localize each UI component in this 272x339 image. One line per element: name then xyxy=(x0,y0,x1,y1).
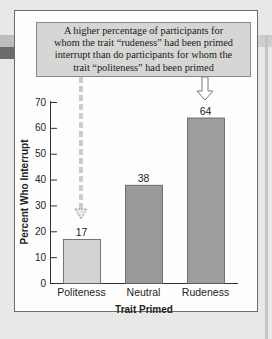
bar-rudeness xyxy=(188,118,225,283)
y-tick-label: 30 xyxy=(35,200,47,211)
y-ticks: 010203040506070 xyxy=(35,97,57,289)
bars: 17Politeness38Neutral64Rudeness xyxy=(57,105,229,298)
bar-neutral xyxy=(126,185,163,283)
y-tick-label: 50 xyxy=(35,148,47,159)
callout-line: A higher percentage of participants for xyxy=(37,25,250,37)
bar-value-label: 17 xyxy=(76,226,88,238)
arrow-down-icon xyxy=(197,77,213,100)
callout-line: whom the trait “rudeness” had been prime… xyxy=(37,37,250,49)
dashed-arrow-icon xyxy=(75,77,87,219)
annotation-callout: A higher percentage of participants for … xyxy=(36,22,251,77)
y-tick-label: 70 xyxy=(35,97,47,108)
callout-line: trait “politeness” had been primed xyxy=(37,62,250,74)
x-category-label: Neutral xyxy=(127,286,161,298)
callout-line: interrupt than do participants for whom … xyxy=(37,49,250,61)
y-tick-label: 40 xyxy=(35,174,47,185)
bar-politeness xyxy=(64,240,101,284)
y-tick-label: 10 xyxy=(35,252,47,263)
bar-value-label: 64 xyxy=(200,105,212,117)
y-axis-title: Percent Who Interrupt xyxy=(19,139,30,245)
x-axis-title: Trait Primed xyxy=(115,304,173,315)
y-tick-label: 20 xyxy=(35,226,47,237)
bar-value-label: 38 xyxy=(138,172,150,184)
x-category-label: Politeness xyxy=(57,286,105,298)
y-tick-label: 0 xyxy=(40,278,46,289)
y-tick-label: 60 xyxy=(35,122,47,133)
x-category-label: Rudeness xyxy=(182,286,229,298)
